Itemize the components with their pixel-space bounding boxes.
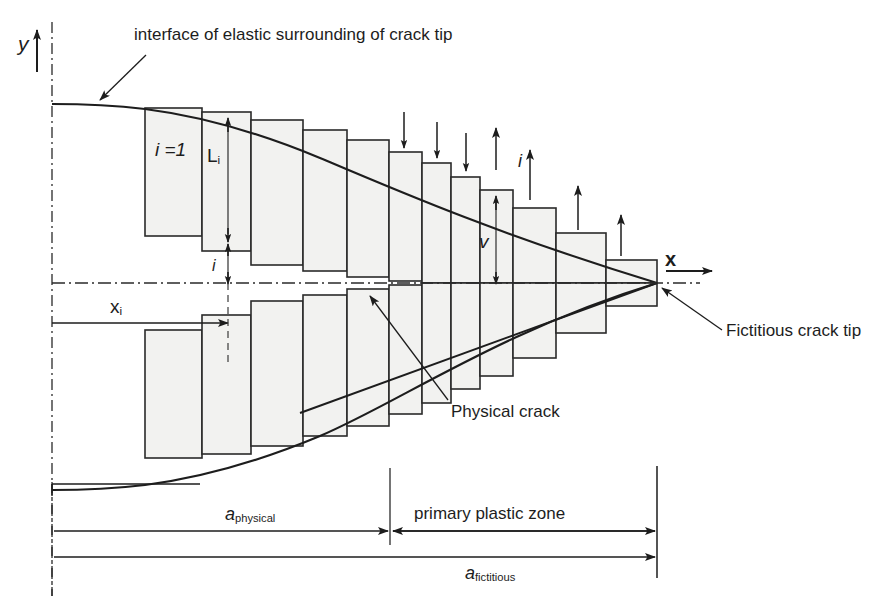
first-element-label: i =1 [155, 140, 186, 159]
xi-main: x [110, 296, 120, 317]
a-fictitious-main: a [465, 563, 475, 583]
figure-canvas: y x interface of elastic surrounding of … [0, 0, 880, 611]
strip-element [145, 330, 202, 458]
element-length-label: Li [207, 146, 220, 166]
a-physical-subscript: physical [235, 512, 275, 524]
primary-plastic-zone-label: primary plastic zone [414, 505, 565, 522]
strip-element [513, 283, 556, 358]
strip-element [389, 285, 422, 414]
strip-element [303, 130, 347, 271]
element-length-subscript: i [218, 153, 221, 166]
strip-element [606, 260, 657, 283]
strip-element [202, 112, 251, 251]
x-axis-label-text: x [665, 249, 676, 269]
strip-element [303, 295, 347, 436]
strip-element [556, 283, 606, 333]
xi-subscript: i [120, 304, 123, 317]
a-fictitious-subscript: fictitious [475, 571, 515, 583]
strip-element [513, 208, 556, 283]
element-index-label: i [518, 152, 522, 170]
a-physical-label: aphysical [225, 505, 275, 524]
interface-leader-line [100, 55, 146, 100]
interface-label: interface of elastic surrounding of crac… [134, 26, 452, 43]
fictitious-tip-label: Fictitious crack tip [726, 322, 861, 339]
fictitious-tip-leader-line [662, 288, 722, 330]
strip-element [451, 177, 480, 283]
strip-element [389, 152, 422, 281]
strip-element [145, 108, 202, 236]
strip-element [422, 163, 451, 283]
strip-element [451, 283, 480, 389]
xi-label: xi [110, 297, 122, 317]
opening-label: v [479, 232, 489, 251]
upper-strip-elements [145, 108, 657, 283]
physical-crack-label: Physical crack [451, 403, 560, 420]
strip-element [347, 140, 389, 277]
strip-element [202, 315, 251, 454]
a-physical-main: a [225, 504, 235, 524]
strip-element [251, 301, 303, 446]
y-axis-label-text: y [18, 33, 29, 54]
element-length-main: L [207, 145, 218, 166]
element-offset-index-label: i [212, 258, 216, 274]
a-fictitious-label: afictitious [465, 564, 515, 583]
strip-element [480, 283, 513, 376]
